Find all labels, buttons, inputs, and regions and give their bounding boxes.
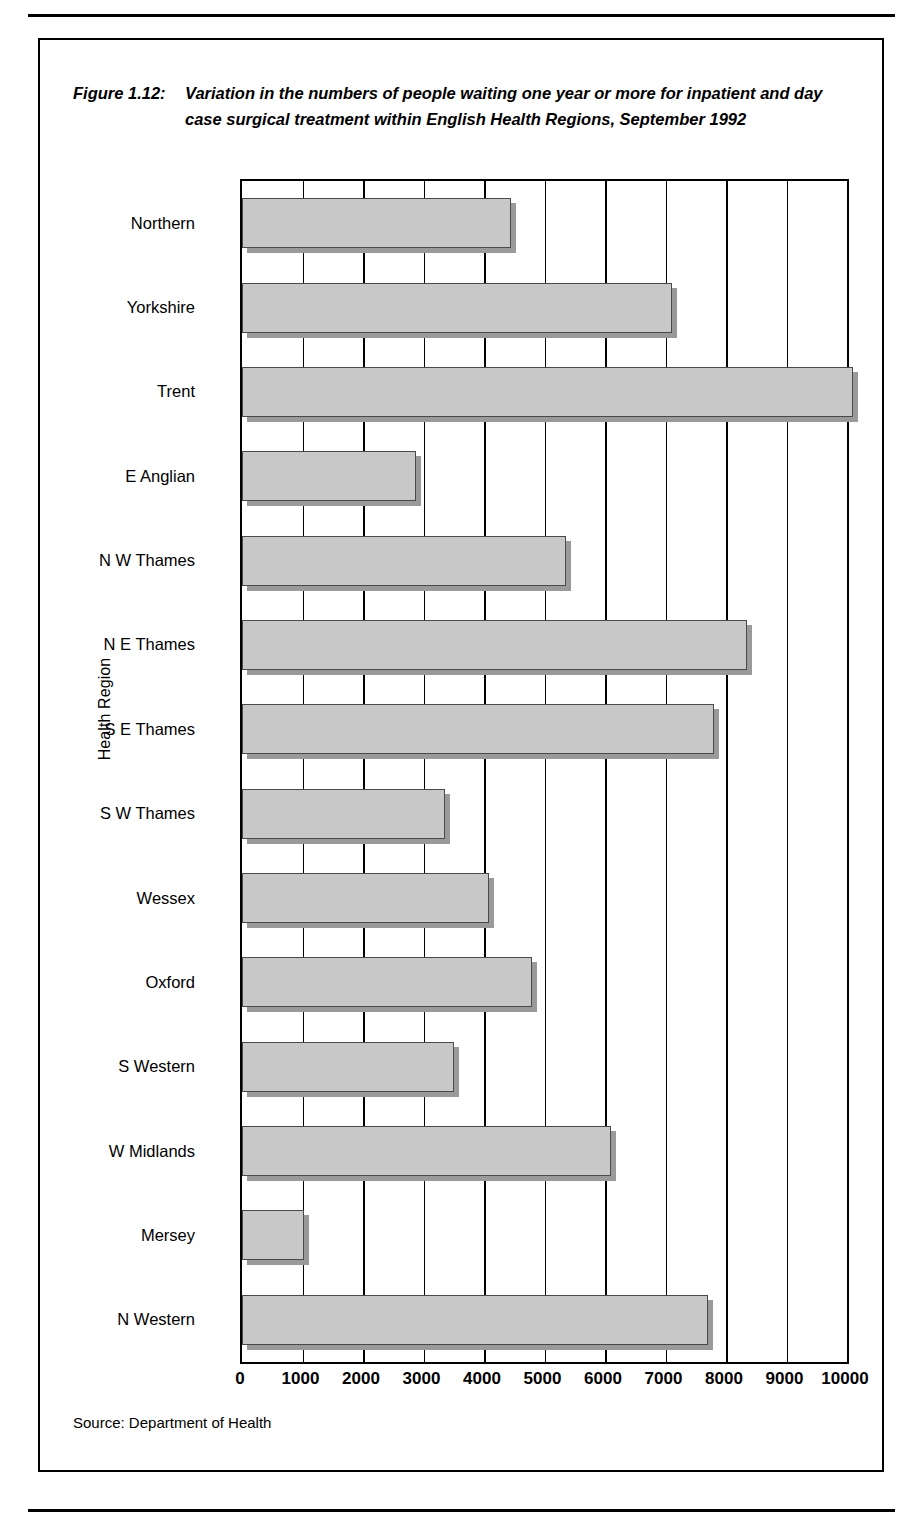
plot-frame: NorthernYorkshireTrentE AnglianN W Thame…: [240, 179, 849, 1364]
x-tick-label: 5000: [524, 1369, 562, 1389]
x-tick-label: 3000: [403, 1369, 441, 1389]
x-tick-label: 10000: [821, 1369, 868, 1389]
bar-s-western[interactable]: [242, 1042, 454, 1092]
bar-rows: NorthernYorkshireTrentE AnglianN W Thame…: [242, 181, 847, 1362]
x-tick-label: 0: [235, 1369, 244, 1389]
bar-row: S E Thames: [242, 704, 847, 754]
bar-row: Oxford: [242, 957, 847, 1007]
bar-oxford[interactable]: [242, 957, 532, 1007]
category-label-mersey: Mersey: [0, 1226, 195, 1245]
category-label-s-w-thames: S W Thames: [0, 804, 195, 823]
figure-container: Figure 1.12: Variation in the numbers of…: [38, 38, 884, 1472]
x-tick-label: 8000: [705, 1369, 743, 1389]
x-tick-label: 6000: [584, 1369, 622, 1389]
chart-area: Health Region NorthernYorkshireTrentE An…: [40, 40, 886, 1474]
bar-row: E Anglian: [242, 451, 847, 501]
bar-n-w-thames[interactable]: [242, 536, 566, 586]
bar-row: Yorkshire: [242, 283, 847, 333]
bar-wessex[interactable]: [242, 873, 489, 923]
x-tick-label: 1000: [282, 1369, 320, 1389]
bar-w-midlands[interactable]: [242, 1126, 611, 1176]
category-label-n-western: N Western: [0, 1310, 195, 1329]
category-label-n-e-thames: N E Thames: [0, 635, 195, 654]
x-tick-label: 4000: [463, 1369, 501, 1389]
source-note: Source: Department of Health: [73, 1414, 271, 1431]
bar-row: Wessex: [242, 873, 847, 923]
bar-s-w-thames[interactable]: [242, 789, 445, 839]
bar-row: S Western: [242, 1042, 847, 1092]
category-label-northern: Northern: [0, 214, 195, 233]
bar-row: Trent: [242, 367, 847, 417]
bar-northern[interactable]: [242, 198, 511, 248]
x-tick-label: 9000: [766, 1369, 804, 1389]
category-label-wessex: Wessex: [0, 889, 195, 908]
bar-yorkshire[interactable]: [242, 283, 672, 333]
bar-row: W Midlands: [242, 1126, 847, 1176]
bar-row: Northern: [242, 198, 847, 248]
x-axis-tick-labels: 0100020003000400050006000700080009000100…: [240, 1369, 845, 1395]
x-tick-label: 7000: [645, 1369, 683, 1389]
bar-row: N E Thames: [242, 620, 847, 670]
category-label-n-w-thames: N W Thames: [0, 551, 195, 570]
bar-mersey[interactable]: [242, 1210, 304, 1260]
bar-row: Mersey: [242, 1210, 847, 1260]
bar-row: N W Thames: [242, 536, 847, 586]
category-label-yorkshire: Yorkshire: [0, 298, 195, 317]
category-label-s-western: S Western: [0, 1057, 195, 1076]
bar-e-anglian[interactable]: [242, 451, 416, 501]
x-tick-label: 2000: [342, 1369, 380, 1389]
bar-s-e-thames[interactable]: [242, 704, 714, 754]
category-label-s-e-thames: S E Thames: [0, 720, 195, 739]
category-label-oxford: Oxford: [0, 973, 195, 992]
bar-trent[interactable]: [242, 367, 853, 417]
bar-n-western[interactable]: [242, 1295, 708, 1345]
bar-n-e-thames[interactable]: [242, 620, 747, 670]
category-label-w-midlands: W Midlands: [0, 1142, 195, 1161]
bar-row: N Western: [242, 1295, 847, 1345]
bar-row: S W Thames: [242, 789, 847, 839]
page-top-rule: [28, 14, 895, 17]
category-label-trent: Trent: [0, 382, 195, 401]
category-label-e-anglian: E Anglian: [0, 467, 195, 486]
page-bottom-rule: [28, 1509, 895, 1512]
